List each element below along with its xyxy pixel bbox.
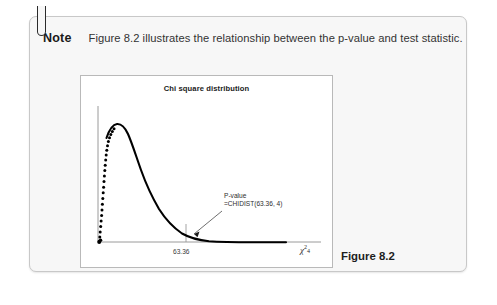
paperclip-icon (37, 6, 46, 36)
chi-square-curve-solid (107, 124, 287, 242)
note-body-text: Figure 8.2 illustrates the relationship … (89, 32, 463, 44)
x-tick-label-63-36: 63.36 (173, 248, 190, 255)
p-value-annotation-line-1: P-value (224, 192, 282, 200)
figure-row: Chi square distribution (41, 57, 458, 263)
chi-square-curve-dotted (97, 127, 115, 244)
annotation-arrow-icon (194, 232, 200, 238)
chi-square-chart: Chi square distribution (80, 75, 333, 268)
chart-plot-area (81, 76, 334, 269)
note-header: Note Figure 8.2 illustrates the relation… (30, 27, 466, 49)
annotation-leader-line (194, 211, 222, 234)
x-axis-label: χ24 (300, 244, 310, 255)
note-label: Note (43, 31, 72, 45)
figure-caption: Figure 8.2 (341, 250, 395, 262)
x-axis-label-subscript: 4 (307, 248, 310, 254)
p-value-annotation-line-2: =CHIDIST(63.36, 4) (224, 200, 282, 208)
note-callout-box: Note Figure 8.2 illustrates the relation… (29, 16, 467, 272)
p-value-annotation: P-value =CHIDIST(63.36, 4) (224, 192, 282, 208)
